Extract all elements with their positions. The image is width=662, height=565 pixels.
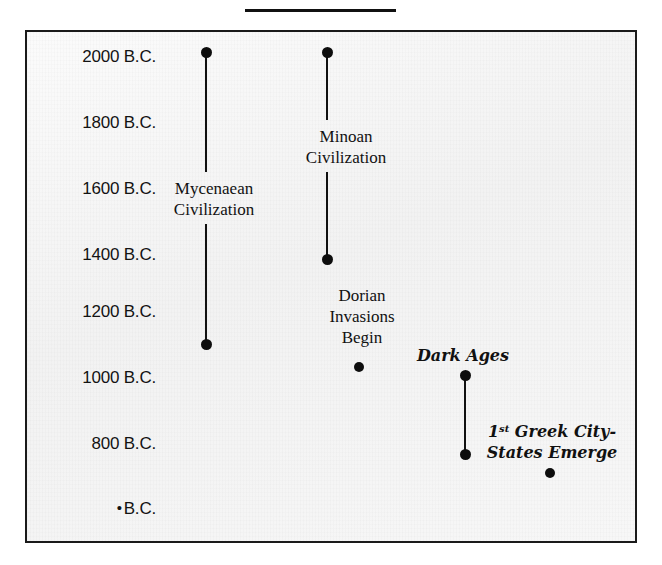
y-axis-tick-1600: 1600 B.C. xyxy=(82,179,156,199)
title-underline-rule xyxy=(245,9,396,12)
event-dot-1st-greek-city-states-emerge xyxy=(545,468,555,478)
y-axis-tick-1000: 1000 B.C. xyxy=(82,368,156,388)
baseline-dot-icon: • xyxy=(117,499,122,516)
event-label-line: 1st Greek City- xyxy=(487,421,618,442)
event-label-line: Civilization xyxy=(306,147,386,168)
event-bar-dark-ages xyxy=(464,375,466,454)
event-label-line: Mycenaean xyxy=(174,178,254,199)
event-start-dot-dark-ages xyxy=(460,370,471,381)
event-end-dot-mycenaean-civilization xyxy=(201,339,212,350)
y-axis-tick-label: B.C. xyxy=(124,499,156,518)
y-axis-tick-2000: 2000 B.C. xyxy=(82,47,156,67)
event-start-dot-mycenaean-civilization xyxy=(201,47,212,58)
y-axis-tick-1400: 1400 B.C. xyxy=(82,245,156,265)
y-axis-tick-1200: 1200 B.C. xyxy=(82,302,156,322)
event-bar-mycenaean-civilization-upper xyxy=(205,52,207,172)
event-start-dot-minoan-civilization xyxy=(322,47,333,58)
y-axis-tick-labels: 2000 B.C.1800 B.C.1600 B.C.1400 B.C.1200… xyxy=(27,32,156,541)
y-axis-tick-1800: 1800 B.C. xyxy=(82,113,156,133)
ordinal-suffix: st xyxy=(499,423,509,434)
event-label-line: Begin xyxy=(329,327,394,348)
y-axis-tick-baseline: •B.C. xyxy=(117,499,156,519)
event-label-minoan-civilization: MinoanCivilization xyxy=(306,126,386,168)
event-bar-minoan-civilization-upper xyxy=(326,52,328,120)
event-label-dark-ages: Dark Ages xyxy=(417,345,509,366)
event-label-line: States Emerge xyxy=(487,442,618,463)
event-end-dot-minoan-civilization xyxy=(322,254,333,265)
y-axis-tick-800: 800 B.C. xyxy=(91,434,156,454)
event-bar-minoan-civilization-lower xyxy=(326,172,328,259)
event-label-line: Dorian xyxy=(329,285,394,306)
event-label-line: Civilization xyxy=(174,199,254,220)
event-label-line: Invasions xyxy=(329,306,394,327)
event-label-dorian-invasions-begin: DorianInvasionsBegin xyxy=(329,285,394,348)
event-label-line: Minoan xyxy=(306,126,386,147)
timeline-chart-frame: 2000 B.C.1800 B.C.1600 B.C.1400 B.C.1200… xyxy=(25,30,637,543)
event-dot-dorian-invasions-begin xyxy=(354,362,364,372)
event-bar-mycenaean-civilization-lower xyxy=(205,224,207,344)
event-label-line: Dark Ages xyxy=(417,345,509,366)
event-label-1st-greek-city-states-emerge: 1st Greek City-States Emerge xyxy=(487,421,618,463)
event-end-dot-dark-ages xyxy=(460,449,471,460)
event-label-mycenaean-civilization: MycenaeanCivilization xyxy=(174,178,254,220)
